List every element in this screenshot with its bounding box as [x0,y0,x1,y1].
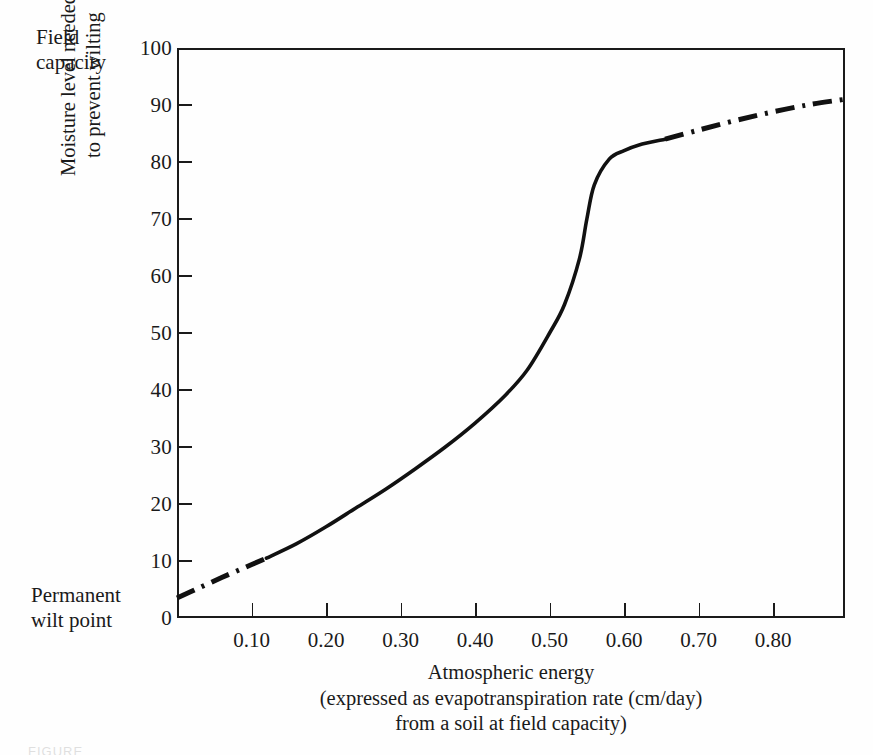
figure-container: Field capacity Permanent wilt point Mois… [0,0,873,755]
x-axis-tick-0.40 [475,603,477,616]
y-axis-tick-label-0: 0 [161,606,172,631]
y-axis-tick-10 [179,560,192,562]
x-axis-tick-0.10 [252,603,254,616]
y-axis-tick-label-50: 50 [151,321,172,346]
x-axis-tick-0.60 [624,603,626,616]
y-axis-tick-labels: 0102030405060708090100 [0,48,172,618]
x-axis-title-line-2: (expressed as evapotranspiration rate (c… [177,686,845,712]
y-axis-tick-70 [179,218,192,220]
x-axis-tick-0.50 [550,603,552,616]
y-axis-tick-label-100: 100 [140,36,172,61]
figure-caption-partial: FIGURE [28,744,328,755]
y-axis-tick-label-90: 90 [151,93,172,118]
x-axis-title: Atmospheric energy (expressed as evapotr… [177,660,845,737]
x-axis-tick-label-0.50: 0.50 [531,628,568,653]
y-axis-tick-60 [179,275,192,277]
plot-area [177,48,845,618]
x-axis-tick-label-0.20: 0.20 [308,628,345,653]
x-axis-tick-label-0.40: 0.40 [457,628,494,653]
x-axis-tick-0.70 [699,603,701,616]
y-axis-tick-label-20: 20 [151,492,172,517]
x-axis-title-line-3: from a soil at field capacity) [177,711,845,737]
y-axis-tick-label-80: 80 [151,150,172,175]
x-axis-tick-label-0.70: 0.70 [680,628,717,653]
x-axis-tick-label-0.60: 0.60 [606,628,643,653]
x-axis-tick-label-0.80: 0.80 [755,628,792,653]
x-axis-tick-0.20 [326,603,328,616]
y-axis-tick-90 [179,104,192,106]
plot-frame-top [177,48,845,50]
y-axis-tick-40 [179,389,192,391]
y-axis-tick-50 [179,332,192,334]
x-axis-tick-label-0.10: 0.10 [233,628,270,653]
y-axis-tick-label-40: 40 [151,378,172,403]
x-axis-tick-label-0.30: 0.30 [382,628,419,653]
y-axis-tick-label-60: 60 [151,264,172,289]
y-axis-tick-label-10: 10 [151,549,172,574]
x-axis-title-line-1: Atmospheric energy [177,660,845,686]
x-axis-tick-0.80 [773,603,775,616]
y-axis-tick-label-70: 70 [151,207,172,232]
y-axis-tick-label-30: 30 [151,435,172,460]
x-axis-tick-0.30 [401,603,403,616]
y-axis-tick-30 [179,446,192,448]
y-axis-tick-80 [179,161,192,163]
y-axis-tick-20 [179,503,192,505]
x-axis-tick-labels: 0.100.200.300.400.500.600.700.80 [177,618,845,652]
plot-frame-right [843,48,845,618]
